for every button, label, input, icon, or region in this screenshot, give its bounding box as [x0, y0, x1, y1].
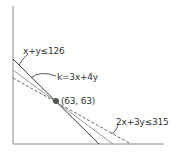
objective-leader	[31, 73, 56, 78]
optimal-point-marker	[53, 98, 59, 104]
lp-diagram: x+y≤126 k=3x+4y (63, 63) 2x+3y≤315	[0, 0, 176, 154]
optimal-point-label: (63, 63)	[61, 96, 95, 106]
constraint2-line	[13, 78, 131, 144]
constraint2-label: 2x+3y≤315	[116, 117, 169, 127]
objective-label: k=3x+4y	[57, 72, 98, 82]
constraint1-label: x+y≤126	[23, 46, 65, 56]
